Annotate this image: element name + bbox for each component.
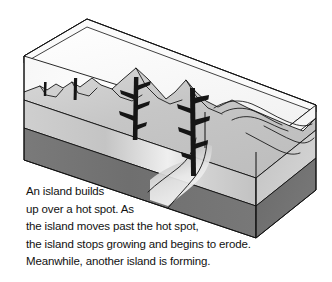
caption-line-5: Meanwhile, another island is forming.: [26, 253, 326, 271]
caption-line-2: up over a hot spot. As: [26, 201, 326, 219]
caption-line-3: the island moves past the hot spot,: [26, 218, 326, 236]
magma-conduit-extinct-left: [44, 82, 47, 96]
caption-line-1: An island builds: [26, 183, 326, 201]
diagram-screenshot: An island builds up over a hot spot. As …: [0, 0, 332, 282]
figure-caption: An island builds up over a hot spot. As …: [26, 183, 326, 271]
caption-line-4: the island stops growing and begins to e…: [26, 236, 326, 254]
magma-conduit-extinct-left-2: [74, 78, 78, 100]
